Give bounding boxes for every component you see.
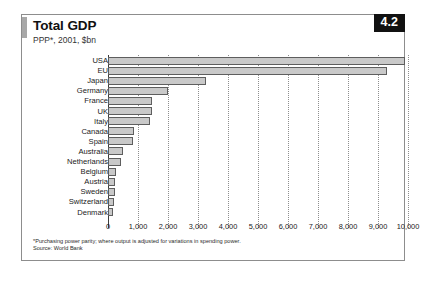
category-label: EU: [0, 66, 108, 76]
bar-row: Germany: [22, 86, 406, 96]
chart-plot-area: USAEUJapanGermanyFranceUKItalyCanadaSpai…: [22, 55, 406, 220]
bar: [108, 188, 115, 196]
x-tick-label: 5,000: [249, 222, 268, 231]
bar-row: Netherlands: [22, 157, 406, 167]
bar-row: UK: [22, 107, 406, 117]
bar: [108, 178, 115, 186]
bar-row: Canada: [22, 127, 406, 137]
x-tick-label: 0: [106, 222, 110, 231]
category-label: Denmark: [0, 208, 108, 218]
bar: [108, 77, 206, 85]
x-tick-label: 2,000: [159, 222, 178, 231]
bar: [108, 97, 152, 105]
bar-row: USA: [22, 56, 406, 66]
x-tick-label: 1,000: [129, 222, 148, 231]
page-title: Total GDP: [33, 18, 96, 33]
x-tick-label: 4,000: [219, 222, 238, 231]
category-label: Canada: [0, 127, 108, 137]
category-label: Australia: [0, 147, 108, 157]
bar: [108, 168, 116, 176]
footnote-source: Source: World Bank: [33, 245, 373, 252]
title-accent-rule: [22, 17, 27, 38]
x-tick-label: 6,000: [279, 222, 298, 231]
x-tick-label: 8,000: [339, 222, 358, 231]
bar-row: Spain: [22, 137, 406, 147]
bar-row: Japan: [22, 76, 406, 86]
bar: [108, 117, 150, 125]
category-label: Germany: [0, 86, 108, 96]
footnote-definition: *Purchasing power parity; where output i…: [33, 238, 373, 245]
category-label: Japan: [0, 76, 108, 86]
bar-row: EU: [22, 66, 406, 76]
x-tick-label: 3,000: [189, 222, 208, 231]
category-label: Italy: [0, 117, 108, 127]
chart-subtitle: PPP*, 2001, $bn: [33, 35, 96, 45]
bar-row: Switzerland: [22, 197, 406, 207]
category-label: Sweden: [0, 187, 108, 197]
bar: [108, 208, 113, 216]
category-label: Netherlands: [0, 157, 108, 167]
bar-row: Belgium: [22, 167, 406, 177]
bar-row: Austria: [22, 177, 406, 187]
bar: [108, 107, 152, 115]
bar: [108, 127, 134, 135]
category-label: USA: [0, 56, 108, 66]
bar: [108, 158, 121, 166]
bar: [108, 147, 123, 155]
chart-header: Total GDP PPP*, 2001, $bn 4.2: [22, 15, 404, 51]
bar: [108, 87, 168, 95]
bar: [108, 67, 387, 75]
chart-page: Total GDP PPP*, 2001, $bn 4.2 USAEUJapan…: [0, 0, 427, 281]
bar: [108, 57, 405, 65]
bar-row: Australia: [22, 147, 406, 157]
x-tick-label: 7,000: [309, 222, 328, 231]
x-tick-label: 10,000: [397, 222, 420, 231]
category-label: UK: [0, 107, 108, 117]
bar-row: Denmark: [22, 208, 406, 218]
bar-row: France: [22, 96, 406, 106]
footnotes: *Purchasing power parity; where output i…: [33, 238, 373, 252]
chapter-number-badge: 4.2: [374, 14, 405, 32]
category-label: Switzerland: [0, 197, 108, 207]
chart-card: Total GDP PPP*, 2001, $bn 4.2 USAEUJapan…: [21, 14, 405, 261]
bar-row: Italy: [22, 117, 406, 127]
bar-row: Sweden: [22, 187, 406, 197]
bar: [108, 198, 114, 206]
category-label: Austria: [0, 177, 108, 187]
gridline: [408, 55, 409, 228]
bar: [108, 137, 133, 145]
category-label: Spain: [0, 137, 108, 147]
category-label: France: [0, 96, 108, 106]
category-label: Belgium: [0, 167, 108, 177]
x-axis: 01,0002,0003,0004,0005,0006,0007,0008,00…: [22, 220, 406, 236]
x-tick-label: 9,000: [369, 222, 388, 231]
